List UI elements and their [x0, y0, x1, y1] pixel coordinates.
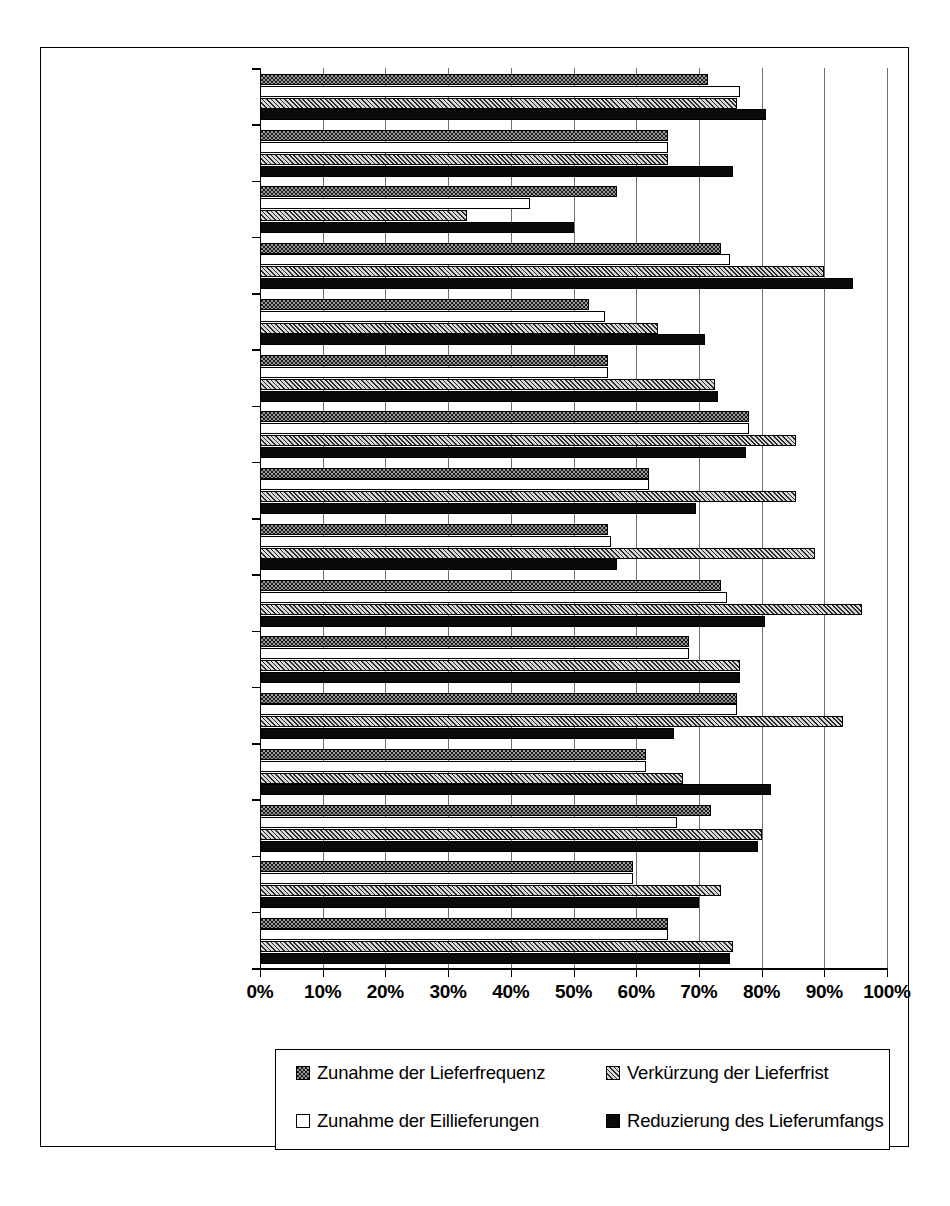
bar-group — [260, 856, 887, 912]
x-tick-label-60: 60% — [618, 981, 655, 1003]
x-tick-80 — [762, 968, 763, 977]
bar — [260, 254, 730, 265]
y-tick — [252, 293, 261, 295]
x-tick-label-10: 10% — [304, 981, 341, 1003]
bar-group — [260, 349, 887, 405]
bar — [260, 636, 689, 647]
x-tick-50 — [574, 968, 575, 977]
bar — [260, 98, 737, 109]
bar — [260, 391, 718, 402]
chart-page: 0%10%20%30%40%50%60%70%80%90%100% Papier… — [0, 0, 950, 1206]
bar — [260, 311, 605, 322]
x-tick-20 — [385, 968, 386, 977]
bar — [260, 716, 843, 727]
x-tick-label-20: 20% — [367, 981, 404, 1003]
bar — [260, 222, 574, 233]
x-tick-label-100: 100% — [863, 981, 910, 1003]
legend-swatch-icon — [296, 1066, 310, 1080]
y-tick — [252, 181, 261, 183]
bar — [260, 805, 711, 816]
bar — [260, 548, 815, 559]
y-tick — [252, 349, 261, 351]
x-tick-label-40: 40% — [492, 981, 529, 1003]
bar — [260, 468, 649, 479]
legend-item[interactable]: Zunahme der Eillieferungen — [296, 1110, 539, 1132]
y-tick — [252, 406, 261, 408]
y-tick — [252, 462, 261, 464]
bar — [260, 953, 730, 964]
bar — [260, 210, 467, 221]
y-tick — [252, 237, 261, 239]
y-tick — [252, 631, 261, 633]
x-tick-0 — [260, 968, 261, 977]
bar-group — [260, 743, 887, 799]
x-tick-90 — [824, 968, 825, 977]
x-tick-label-50: 50% — [555, 981, 592, 1003]
bar-group — [260, 237, 887, 293]
x-tick-10 — [323, 968, 324, 977]
legend-swatch-icon — [296, 1114, 310, 1128]
bar — [260, 841, 758, 852]
bar-group — [260, 518, 887, 574]
legend-swatch-icon — [606, 1066, 620, 1080]
x-tick-40 — [511, 968, 512, 977]
bar — [260, 918, 668, 929]
bar — [260, 243, 721, 254]
bar — [260, 323, 658, 334]
bar — [260, 198, 530, 209]
bar-group — [260, 293, 887, 349]
x-tick-label-90: 90% — [806, 981, 843, 1003]
bar — [260, 873, 633, 884]
bar — [260, 648, 689, 659]
x-tick-label-70: 70% — [680, 981, 717, 1003]
bar-group — [260, 462, 887, 518]
x-tick-60 — [636, 968, 637, 977]
bar — [260, 536, 611, 547]
bar — [260, 491, 796, 502]
bar — [260, 559, 617, 570]
bar — [260, 885, 721, 896]
y-tick — [252, 743, 261, 745]
legend-item[interactable]: Zunahme der Lieferfrequenz — [296, 1062, 545, 1084]
y-tick — [252, 124, 261, 126]
bar — [260, 693, 737, 704]
bar — [260, 130, 668, 141]
bar — [260, 784, 771, 795]
bar — [260, 479, 649, 490]
bar — [260, 749, 646, 760]
legend-item[interactable]: Reduzierung des Lieferumfangs — [606, 1110, 883, 1132]
bar — [260, 447, 746, 458]
bar — [260, 861, 633, 872]
gridline-100 — [887, 68, 888, 968]
bar — [260, 604, 862, 615]
y-tick — [252, 574, 261, 576]
bar — [260, 142, 668, 153]
bar-group — [260, 631, 887, 687]
bar — [260, 580, 721, 591]
bar — [260, 379, 715, 390]
bar — [260, 423, 749, 434]
bar-group — [260, 574, 887, 630]
bar — [260, 109, 766, 120]
bar — [260, 278, 853, 289]
bar — [260, 166, 733, 177]
bar — [260, 334, 705, 345]
bar — [260, 299, 589, 310]
bar — [260, 367, 608, 378]
x-tick-70 — [699, 968, 700, 977]
bar-group — [260, 912, 887, 968]
bar-group — [260, 406, 887, 462]
bar — [260, 941, 733, 952]
bar — [260, 672, 740, 683]
x-tick-label-30: 30% — [430, 981, 467, 1003]
bar — [260, 616, 765, 627]
x-tick-30 — [448, 968, 449, 977]
bar — [260, 761, 646, 772]
bar-group — [260, 181, 887, 237]
bar — [260, 154, 668, 165]
y-tick — [252, 912, 261, 914]
bar — [260, 74, 708, 85]
legend-item[interactable]: Verkürzung der Lieferfrist — [606, 1062, 828, 1084]
bar — [260, 929, 668, 940]
y-tick — [252, 687, 261, 689]
